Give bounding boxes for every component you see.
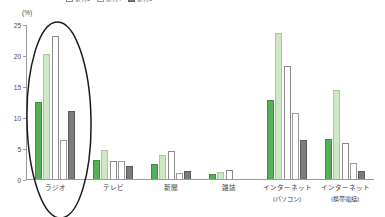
legend-item-2: 系列4 — [97, 0, 121, 3]
x-axis-label-3: 新聞 — [142, 183, 200, 215]
bar-3-2 — [159, 155, 166, 180]
y-tick-label-10: 10 — [14, 115, 21, 122]
bar-1-4 — [60, 140, 67, 179]
y-tick-label-20: 20 — [14, 53, 21, 60]
bar-group-6 — [316, 25, 374, 179]
y-tick-label-0: 0 — [17, 177, 21, 184]
bar-6-2 — [333, 90, 340, 179]
bar-5-1 — [267, 100, 274, 179]
y-axis-unit-label: (%) — [22, 9, 32, 16]
bar-6-4 — [350, 163, 357, 180]
bar-3-1 — [151, 164, 158, 179]
bar-2-3 — [110, 161, 117, 179]
bar-4-1 — [209, 174, 216, 180]
bar-group-1 — [26, 25, 84, 179]
bar-groups — [26, 25, 374, 179]
legend-swatch-icon — [128, 0, 135, 2]
legend-label-3: 系列5 — [137, 0, 152, 3]
bar-3-4 — [176, 173, 183, 179]
x-axis-label-2: テレビ — [84, 183, 142, 215]
legend-item-3: 系列5 — [128, 0, 152, 3]
bar-5-2 — [275, 33, 282, 179]
bar-1-1 — [35, 102, 42, 179]
bar-1-3 — [52, 36, 59, 179]
bar-2-1 — [93, 160, 100, 180]
bar-5-5 — [300, 140, 307, 179]
y-tick-label-25: 25 — [14, 22, 21, 29]
chart-legend: 系列3 系列4 系列5 — [66, 0, 152, 3]
x-axis-label-4: 雑誌 — [200, 183, 258, 215]
bar-1-5 — [68, 111, 75, 179]
legend-swatch-icon — [97, 0, 104, 2]
bar-group-5 — [258, 25, 316, 179]
y-tick-label-15: 15 — [14, 84, 21, 91]
legend-item-1: 系列3 — [66, 0, 90, 3]
bar-4-2 — [217, 172, 224, 179]
bar-4-3 — [226, 170, 233, 179]
bar-5-3 — [284, 66, 291, 179]
bar-6-5 — [358, 171, 365, 180]
legend-label-1: 系列3 — [75, 0, 90, 3]
x-axis-line — [26, 179, 374, 180]
x-axis-labels: ラジオテレビ新聞雑誌インターネット(パソコン)インターネット(携帯電話) — [26, 183, 374, 215]
bar-5-4 — [292, 113, 299, 179]
bar-3-5 — [184, 171, 191, 180]
bar-6-3 — [342, 143, 349, 179]
x-axis-label-1: ラジオ — [26, 183, 84, 215]
bar-group-3 — [142, 25, 200, 179]
bar-group-4 — [200, 25, 258, 179]
bar-3-3 — [168, 151, 175, 179]
bar-2-5 — [126, 166, 133, 179]
bar-2-2 — [101, 150, 108, 180]
bar-6-1 — [325, 139, 332, 179]
y-tick-label-5: 5 — [17, 146, 21, 153]
x-axis-label-5: インターネット(パソコン) — [258, 183, 316, 215]
legend-label-2: 系列4 — [106, 0, 121, 3]
bar-1-2 — [43, 54, 50, 179]
legend-swatch-icon — [66, 0, 73, 2]
plot-area: 0 5 10 15 20 25 — [26, 25, 374, 180]
bar-chart: 系列3 系列4 系列5 (%) 0 5 10 15 — [0, 0, 385, 217]
x-axis-label-6: インターネット(携帯電話) — [316, 183, 374, 215]
bar-group-2 — [84, 25, 142, 179]
bar-2-4 — [118, 161, 125, 179]
